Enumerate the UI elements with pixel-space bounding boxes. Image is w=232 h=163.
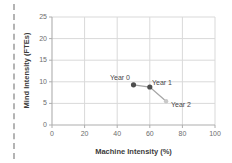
data-label-year-2: Year 2 — [171, 101, 191, 108]
x-tick-label-80: 80 — [172, 130, 192, 137]
data-point-year-2[interactable] — [164, 99, 168, 103]
data-label-year-1: Year 1 — [152, 79, 172, 86]
x-tick-label-0: 0 — [42, 130, 62, 137]
y-tick-label-5: 5 — [31, 99, 47, 106]
y-tick-label-10: 10 — [31, 78, 47, 85]
chart-figure: 25 20 15 10 5 0 0 20 40 60 80 100 Machin… — [0, 0, 232, 163]
y-tick-label-15: 15 — [31, 56, 47, 63]
x-axis-title: Machine Intensity (%) — [52, 147, 215, 156]
y-tick-label-20: 20 — [31, 35, 47, 42]
x-tick-label-60: 60 — [140, 130, 160, 137]
y-tick-label-25: 25 — [31, 13, 47, 20]
x-tick-label-40: 40 — [107, 130, 127, 137]
plot-background — [52, 17, 215, 125]
y-tick-label-0: 0 — [31, 121, 47, 128]
data-label-year-0: Year 0 — [110, 74, 130, 81]
y-axis-title: Mind Intensity (FTEs) — [22, 17, 31, 125]
x-tick-label-100: 100 — [205, 130, 225, 137]
data-point-year-0[interactable] — [131, 82, 136, 87]
x-tick-label-20: 20 — [75, 130, 95, 137]
